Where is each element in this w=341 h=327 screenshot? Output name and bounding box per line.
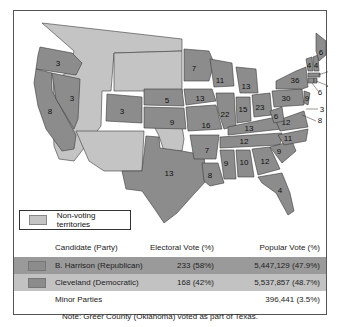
- svg-text:8: 8: [48, 107, 53, 116]
- table-row-harrison: B. Harrison (Republican) 233 (58%) 5,447…: [14, 257, 326, 274]
- header-popular: Popular Vote (%): [260, 243, 320, 252]
- territory-new-mexico-arizona: [76, 131, 144, 171]
- state-tennessee: [220, 133, 282, 148]
- state-minnesota: [184, 49, 214, 81]
- svg-text:6: 6: [274, 112, 279, 121]
- svg-text:11: 11: [284, 134, 293, 143]
- svg-text:30: 30: [282, 94, 291, 103]
- map-legend: Non-voting territories: [19, 210, 131, 230]
- state-louisiana: [202, 163, 224, 186]
- label-maryland: 8: [318, 116, 323, 125]
- svg-text:11: 11: [216, 76, 225, 85]
- legend-swatch-non-voting: [29, 215, 47, 225]
- candidate-name: Minor Parties: [55, 295, 102, 304]
- svg-text:9: 9: [170, 118, 175, 127]
- svg-text:3: 3: [120, 107, 125, 116]
- state-north-carolina: [278, 129, 308, 145]
- header-electoral: Electoral Vote (%): [150, 243, 214, 252]
- svg-text:36: 36: [291, 76, 300, 85]
- svg-text:4: 4: [278, 186, 283, 195]
- svg-text:9: 9: [224, 159, 229, 168]
- state-florida: [258, 173, 294, 215]
- popular-vote: 5,447,129 (47.9%): [254, 261, 320, 270]
- results-table: Candidate (Party) Electoral Vote (%) Pop…: [14, 240, 326, 325]
- svg-text:9: 9: [305, 94, 310, 103]
- svg-text:12: 12: [261, 157, 270, 166]
- svg-text:13: 13: [165, 169, 174, 178]
- svg-text:13: 13: [245, 124, 254, 133]
- svg-text:23: 23: [256, 103, 265, 112]
- candidate-name: Cleveland (Democratic): [55, 278, 139, 287]
- footnote: Note: Greer County (Oklahoma) voted as p…: [62, 312, 258, 321]
- state-rhode-island: [314, 78, 317, 83]
- table-row-minor-parties: Minor Parties 396,441 (3.5%): [14, 291, 326, 308]
- svg-text:3: 3: [70, 94, 75, 103]
- svg-text:3: 3: [56, 59, 61, 68]
- svg-text:12: 12: [240, 137, 249, 146]
- candidate-name: B. Harrison (Republican): [55, 261, 143, 270]
- svg-text:7: 7: [205, 146, 210, 155]
- territory-dakota: [114, 51, 182, 93]
- state-kansas: [144, 107, 186, 129]
- label-connecticut: 6: [318, 88, 323, 97]
- label-delaware: 3: [320, 105, 325, 114]
- electoral-vote: 233 (58%): [177, 261, 214, 270]
- svg-text:9: 9: [277, 147, 282, 156]
- svg-text:7: 7: [192, 64, 197, 73]
- svg-text:4: 4: [314, 61, 319, 70]
- state-connecticut: [308, 78, 314, 83]
- popular-vote: 5,537,857 (48.7%): [254, 278, 320, 287]
- svg-text:6: 6: [319, 48, 324, 57]
- election-map-figure: 3 8 3 3 5 9 13 7 13: [13, 10, 327, 315]
- svg-text:16: 16: [202, 121, 211, 130]
- svg-text:5: 5: [165, 96, 170, 105]
- header-candidate: Candidate (Party): [55, 243, 118, 252]
- party-swatch-democratic: [28, 278, 46, 288]
- legend-label: Non-voting territories: [57, 211, 130, 229]
- table-row-cleveland: Cleveland (Democratic) 168 (42%) 5,537,8…: [14, 274, 326, 291]
- svg-text:4: 4: [307, 61, 312, 70]
- svg-text:22: 22: [221, 110, 230, 119]
- label-rhode-island: 4: [327, 81, 328, 90]
- party-swatch-republican: [28, 261, 46, 271]
- electoral-vote: 168 (42%): [177, 278, 214, 287]
- table-header-row: Candidate (Party) Electoral Vote (%) Pop…: [14, 240, 326, 257]
- svg-text:13: 13: [196, 94, 205, 103]
- table-note-row: Note: Greer County (Oklahoma) voted as p…: [14, 308, 326, 325]
- svg-text:8: 8: [208, 171, 213, 180]
- svg-text:13: 13: [242, 82, 251, 91]
- popular-vote: 396,441 (3.5%): [265, 295, 320, 304]
- svg-text:10: 10: [240, 158, 249, 167]
- svg-text:15: 15: [239, 105, 248, 114]
- us-map: 3 8 3 3 5 9 13 7 13: [14, 11, 328, 236]
